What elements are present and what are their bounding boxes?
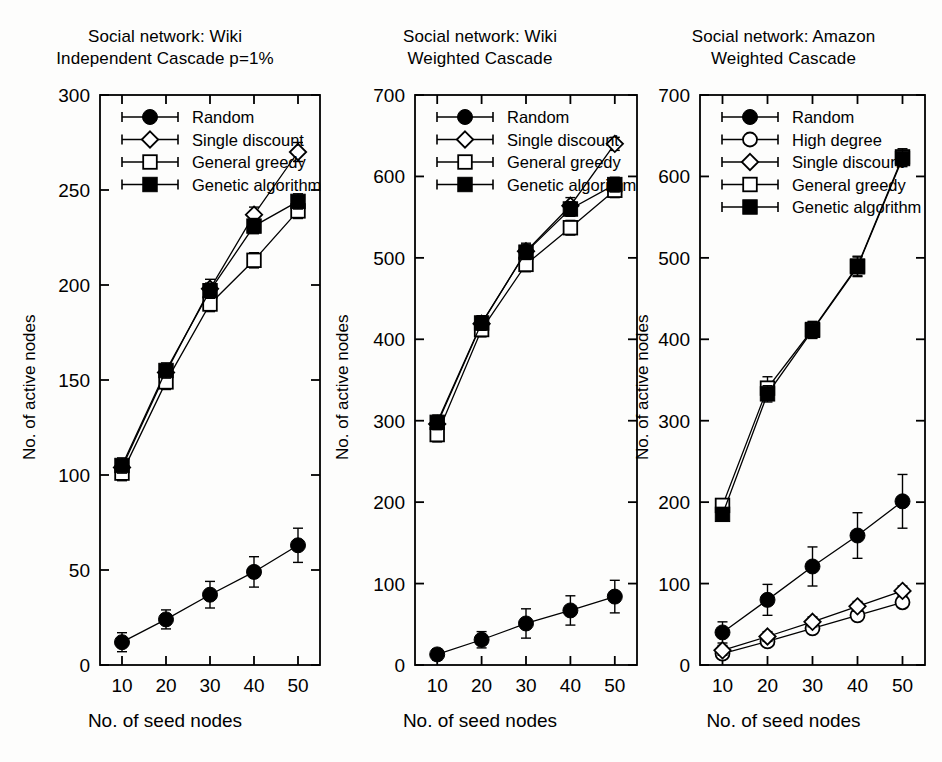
y-tick-label: 200 (658, 492, 690, 513)
data-point-marker-filled-square (474, 316, 488, 330)
data-point-marker-filled-square (715, 507, 729, 521)
legend-label: Random (507, 108, 569, 126)
chart-panel-amazon-weighted-cascade: Social network: Amazon Weighted Cascade … (625, 0, 942, 762)
y-tick-label: 50 (69, 560, 90, 581)
series-genetic-algorithm (430, 177, 622, 429)
y-tick-label: 0 (679, 655, 690, 676)
legend-label: Genetic algorithm (507, 176, 636, 194)
x-tick-label: 20 (757, 675, 778, 696)
data-point-marker-filled-circle (143, 110, 158, 125)
legend-label: Single discount (507, 131, 619, 149)
y-axis-label: No. of active nodes (333, 314, 353, 460)
legend-label: Single discount (792, 153, 904, 171)
legend-label: Random (792, 108, 854, 126)
data-point-marker-filled-circle (474, 632, 489, 647)
y-tick-label: 300 (373, 411, 405, 432)
data-point-marker-filled-circle (115, 635, 130, 650)
legend-label: High degree (792, 131, 882, 149)
data-point-marker-filled-circle (430, 647, 445, 662)
y-tick-label: 400 (658, 329, 690, 350)
data-point-marker-open-square (247, 254, 261, 268)
x-tick-label: 40 (243, 675, 264, 696)
legend-label: Single discount (192, 131, 304, 149)
data-point-marker-filled-square (563, 202, 577, 216)
y-tick-label: 600 (658, 166, 690, 187)
x-tick-label: 20 (155, 675, 176, 696)
x-tick-label: 20 (471, 675, 492, 696)
series-line (122, 211, 298, 473)
series-general-greedy (115, 203, 305, 480)
series-random (430, 580, 623, 662)
legend-label: Genetic algorithm (792, 198, 921, 216)
legend-label: General greedy (792, 176, 906, 194)
data-point-marker-filled-square (519, 245, 533, 259)
data-point-marker-open-diamond (894, 583, 910, 599)
data-point-marker-filled-circle (563, 603, 578, 618)
x-tick-label: 40 (847, 675, 868, 696)
series-random (115, 528, 306, 652)
data-point-marker-filled-square (159, 363, 173, 377)
data-point-marker-open-square (743, 178, 757, 192)
x-tick-label: 30 (199, 675, 220, 696)
y-tick-label: 700 (658, 85, 690, 106)
plot-area-panel-2: 01002003004005006007001020304050RandomSi… (315, 0, 645, 700)
legend-label: Random (192, 108, 254, 126)
x-axis-label: No. of seed nodes (625, 710, 942, 732)
x-tick-label: 30 (515, 675, 536, 696)
data-point-marker-filled-circle (760, 592, 775, 607)
data-point-marker-filled-square (247, 219, 261, 233)
x-axis-label: No. of seed nodes (0, 710, 330, 732)
data-point-marker-filled-circle (159, 612, 174, 627)
y-tick-label: 200 (373, 492, 405, 513)
x-tick-label: 50 (604, 675, 625, 696)
data-point-marker-filled-square (805, 323, 819, 337)
data-point-marker-open-square (458, 155, 472, 169)
x-tick-label: 10 (111, 675, 132, 696)
x-tick-label: 50 (892, 675, 913, 696)
data-point-marker-filled-circle (203, 587, 218, 602)
x-tick-label: 50 (287, 675, 308, 696)
y-tick-label: 700 (373, 85, 405, 106)
y-tick-label: 0 (394, 655, 405, 676)
y-tick-label: 0 (79, 655, 90, 676)
y-tick-label: 300 (58, 85, 90, 106)
data-point-marker-open-diamond (742, 154, 758, 170)
data-point-marker-filled-square (203, 284, 217, 298)
y-tick-label: 600 (373, 166, 405, 187)
y-tick-label: 300 (658, 411, 690, 432)
y-tick-label: 250 (58, 180, 90, 201)
data-point-marker-filled-circle (715, 625, 730, 640)
x-tick-label: 10 (427, 675, 448, 696)
plot-area-panel-3: 01002003004005006007001020304050RandomHi… (625, 0, 942, 700)
y-tick-label: 500 (373, 248, 405, 269)
y-tick-label: 500 (658, 248, 690, 269)
legend-label: General greedy (507, 153, 621, 171)
chart-panel-wiki-independent-cascade: Social network: Wiki Independent Cascade… (0, 0, 330, 762)
legend-label: Genetic algorithm (192, 176, 321, 194)
chart-panel-wiki-weighted-cascade: Social network: Wiki Weighted Cascade 01… (315, 0, 645, 762)
y-tick-label: 200 (58, 275, 90, 296)
y-tick-label: 150 (58, 370, 90, 391)
legend-label: General greedy (192, 153, 306, 171)
data-point-marker-filled-square (115, 458, 129, 472)
y-axis-label: No. of active nodes (633, 314, 653, 460)
plot-area-panel-1: 0501001502002503001020304050RandomSingle… (0, 0, 330, 700)
data-point-marker-filled-circle (743, 110, 758, 125)
data-point-marker-filled-circle (805, 559, 820, 574)
x-tick-label: 10 (712, 675, 733, 696)
x-axis-label: No. of seed nodes (315, 710, 645, 732)
x-tick-label: 40 (560, 675, 581, 696)
y-tick-label: 100 (658, 574, 690, 595)
data-point-marker-open-square (564, 221, 578, 235)
series-general-greedy (430, 183, 621, 442)
data-point-marker-filled-circle (519, 616, 534, 631)
data-point-marker-filled-circle (607, 589, 622, 604)
data-point-marker-filled-circle (458, 110, 473, 125)
data-point-marker-open-diamond (142, 131, 158, 147)
data-point-marker-filled-square (743, 200, 757, 214)
data-point-marker-filled-square (143, 177, 157, 191)
data-point-marker-filled-square (430, 415, 444, 429)
y-tick-label: 400 (373, 329, 405, 350)
series-line (437, 190, 615, 434)
data-point-marker-filled-circle (850, 528, 865, 543)
